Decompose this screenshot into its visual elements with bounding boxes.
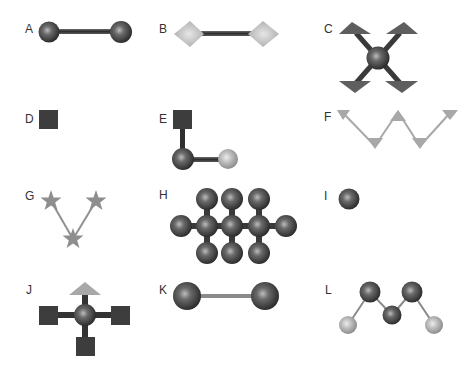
panel-l: L [325, 282, 443, 335]
panel-d: D [25, 110, 58, 129]
panel-b: B [159, 21, 279, 47]
diamond-shape [174, 21, 204, 47]
panel-label-l: L [325, 283, 332, 297]
sphere-dark [221, 188, 243, 210]
panel-label-i: I [324, 189, 327, 203]
square-dark [111, 306, 130, 325]
panel-f: F [324, 110, 458, 149]
bond [55, 29, 115, 34]
sphere-dark [248, 215, 270, 237]
panel-a: A [25, 21, 132, 43]
sphere-dark [339, 189, 360, 210]
triangle-down [412, 138, 428, 149]
panel-label-d: D [25, 112, 34, 126]
panel-label-g: G [25, 189, 34, 203]
sphere-light [425, 316, 443, 334]
star-shape [63, 228, 84, 248]
panel-label-j: J [26, 283, 32, 297]
triangle-up [390, 110, 406, 121]
sphere-dark [360, 282, 381, 303]
triangle-down [367, 138, 383, 149]
triangle-up [339, 22, 371, 34]
triangle-up [386, 22, 418, 34]
panel-label-f: F [324, 110, 331, 124]
square-dark [76, 337, 95, 356]
diamond-shape [248, 21, 279, 47]
sphere-dark [172, 148, 194, 170]
square-dark [39, 110, 58, 129]
triangle-down [339, 81, 371, 93]
sphere-dark [248, 188, 270, 210]
sphere-dark [383, 306, 402, 325]
sphere-dark [367, 47, 390, 70]
sphere-dark [173, 282, 201, 310]
sphere-dark [74, 304, 96, 326]
panel-g: G [25, 189, 107, 248]
panel-label-h: H [159, 188, 168, 202]
molecule-diagram-figure: A B C D E F [0, 0, 474, 372]
panel-k: K [159, 282, 279, 310]
star-shape [86, 190, 107, 210]
panel-label-c: C [324, 22, 333, 36]
sphere-dark [196, 242, 218, 264]
sphere-dark [275, 215, 297, 237]
square-dark [173, 110, 192, 129]
panel-h: H [159, 188, 297, 264]
sphere-light [339, 316, 357, 334]
panel-c: C [324, 22, 418, 93]
panel-e: E [159, 110, 238, 170]
panel-label-b: B [159, 22, 167, 36]
sphere-dark [221, 242, 243, 264]
bond [200, 31, 253, 36]
triangle-up [69, 282, 101, 295]
sphere-dark [110, 21, 132, 43]
star-shape [41, 190, 62, 210]
panel-i: I [324, 189, 360, 210]
sphere-dark [170, 215, 192, 237]
panel-label-a: A [25, 22, 33, 36]
panel-label-e: E [159, 112, 167, 126]
sphere-dark [251, 282, 279, 310]
sphere-dark [402, 282, 423, 303]
bond [198, 294, 254, 298]
sphere-dark [196, 215, 218, 237]
sphere-light [218, 149, 238, 169]
sphere-dark [196, 188, 218, 210]
sphere-dark [248, 242, 270, 264]
panel-label-k: K [159, 283, 167, 297]
sphere-dark [39, 22, 60, 43]
panel-j: J [26, 282, 130, 356]
square-dark [39, 306, 58, 325]
sphere-dark [221, 215, 243, 237]
triangle-down [385, 81, 418, 93]
